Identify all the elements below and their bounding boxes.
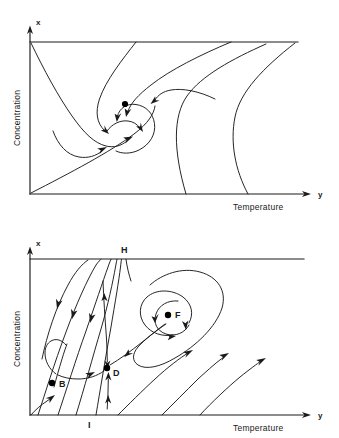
fixed-point-stable-focus	[122, 101, 128, 107]
trajectory-6	[176, 44, 266, 194]
fixed-point-F-label: F	[175, 310, 181, 320]
annotation-I-label: I	[88, 420, 91, 430]
x-axis-title: Temperature	[233, 202, 283, 212]
top-panel-svg: x y Temperature Concentration	[0, 0, 339, 219]
trajectory-10	[107, 121, 140, 131]
bottom-panel-axes	[27, 247, 311, 419]
phase-portrait-top-panel: x y Temperature Concentration	[0, 0, 339, 219]
focus-F-inner-spiral	[155, 301, 189, 335]
trajectory-5-arrowhead	[151, 96, 160, 104]
fixed-point-B	[49, 380, 55, 386]
trajectory-8	[31, 106, 155, 193]
trajectory-to-B-arrowhead	[46, 395, 55, 403]
trajectory-L3-arrowhead	[89, 313, 96, 323]
fixed-point-D-label: D	[113, 368, 120, 378]
phase-portrait-bottom-panel: B D F H I x y Temperature Concentration	[0, 219, 339, 438]
trajectory-7	[233, 43, 295, 194]
trajectory-R1-arrowhead	[183, 350, 193, 358]
y-axis-title: Concentration	[12, 90, 22, 146]
y-axis-variable-label: x	[36, 18, 41, 27]
separatrix-D-to-B	[58, 371, 104, 379]
trajectory-R2	[162, 357, 224, 415]
separatrix-D-upper-arrowhead-2	[101, 293, 107, 301]
x-axis-variable-label: y	[318, 411, 323, 420]
focus-F-mid-arrowhead	[182, 320, 188, 330]
separatrix-D-upper	[103, 281, 107, 362]
fixed-point-D	[104, 365, 110, 371]
separatrix-D-lower-arrowhead-2	[105, 395, 111, 403]
trajectory-4	[128, 42, 231, 111]
figure-root: x y Temperature Concentration	[0, 0, 339, 438]
top-panel-axes	[27, 26, 311, 198]
trajectory-9	[53, 131, 102, 157]
trajectory-L4	[76, 259, 117, 415]
trajectory-R1	[118, 353, 188, 415]
separatrix-D-lower	[107, 379, 108, 409]
top-panel-trajectories	[31, 42, 295, 194]
bottom-panel-trajectories	[31, 259, 266, 415]
separatrix-H	[126, 259, 131, 281]
trajectory-R3-arrowhead	[256, 358, 266, 366]
trajectory-L1-arrowhead	[56, 299, 63, 309]
fixed-point-F	[165, 312, 171, 318]
fixed-point-B-label: B	[59, 379, 66, 389]
trajectory-2	[116, 104, 155, 153]
y-axis-title: Concentration	[12, 311, 22, 367]
trajectory-1	[31, 43, 127, 147]
x-axis-variable-label: y	[318, 190, 323, 199]
x-axis-title: Temperature	[233, 423, 283, 433]
y-axis-variable-label: x	[36, 239, 41, 248]
annotation-H-label: H	[121, 245, 128, 255]
trajectory-L5	[96, 259, 122, 415]
bottom-panel-svg: B D F H I x y Temperature Concentration	[0, 219, 339, 438]
